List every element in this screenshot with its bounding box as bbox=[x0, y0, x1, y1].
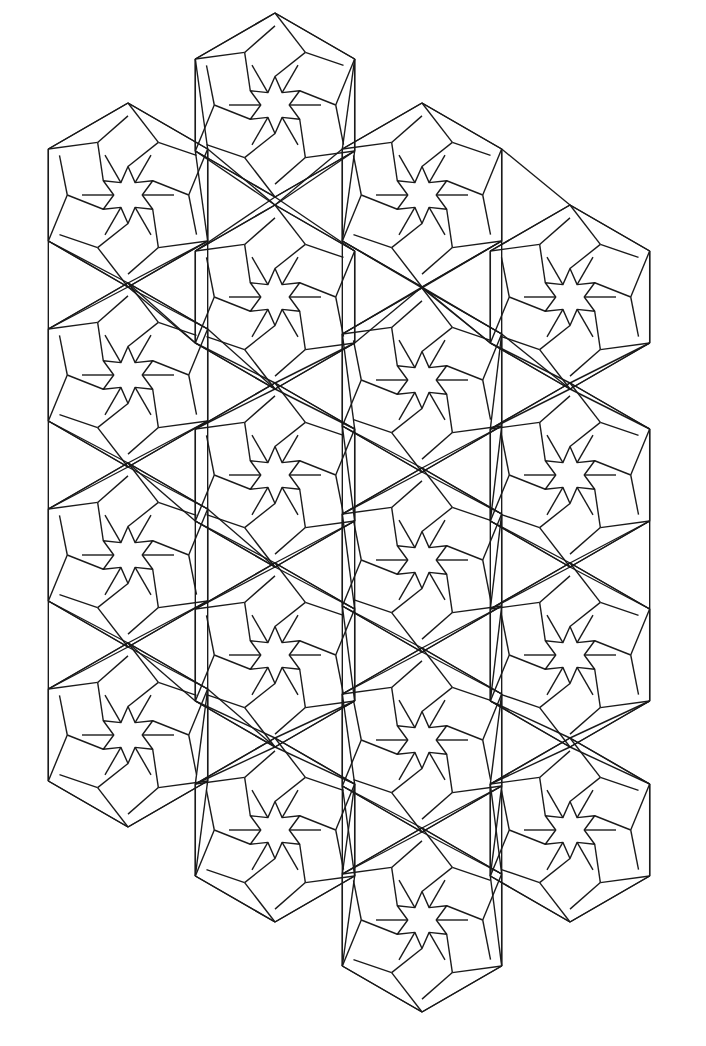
hexagon-star-pattern bbox=[0, 0, 706, 1046]
hexagon-tile bbox=[48, 103, 207, 287]
hexagon-tile bbox=[342, 288, 501, 472]
hexagon-tile bbox=[195, 205, 354, 389]
hexagon-tile bbox=[490, 383, 649, 567]
hexagon-tile bbox=[195, 13, 354, 197]
hexagon-tile bbox=[342, 468, 501, 652]
hexagon-tile bbox=[195, 563, 354, 747]
hexagon-tile bbox=[342, 103, 501, 287]
hexagon-tile bbox=[48, 463, 207, 647]
line-art-canvas bbox=[0, 0, 706, 1046]
hexagon-tile bbox=[48, 283, 207, 467]
hexagon-tile bbox=[490, 738, 649, 922]
hexagon-tile bbox=[195, 383, 354, 567]
hexagon-tile bbox=[342, 648, 501, 832]
hexagon-tile bbox=[490, 563, 649, 747]
hexagon-tile bbox=[195, 738, 354, 922]
hexagon-tile bbox=[342, 828, 501, 1012]
hexagon-tile bbox=[490, 205, 649, 389]
hexagon-tile bbox=[48, 643, 207, 827]
